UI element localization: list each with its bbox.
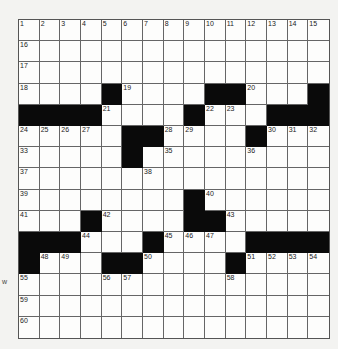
grid-cell[interactable]: 23	[226, 105, 247, 126]
grid-cell[interactable]: 47	[205, 232, 226, 253]
grid-cell[interactable]: 49	[60, 253, 81, 274]
grid-cell[interactable]	[81, 274, 102, 295]
grid-cell[interactable]	[226, 41, 247, 62]
grid-cell[interactable]	[164, 296, 185, 317]
grid-cell[interactable]: 30	[267, 126, 288, 147]
grid-cell[interactable]	[267, 274, 288, 295]
grid-cell[interactable]	[81, 317, 102, 338]
grid-cell[interactable]: 13	[267, 20, 288, 41]
grid-cell[interactable]	[226, 62, 247, 83]
grid-cell[interactable]	[102, 232, 123, 253]
grid-cell[interactable]	[267, 41, 288, 62]
grid-cell[interactable]: 33	[19, 147, 40, 168]
grid-cell[interactable]	[102, 62, 123, 83]
grid-cell[interactable]	[81, 190, 102, 211]
grid-cell[interactable]	[102, 190, 123, 211]
grid-cell[interactable]: 9	[184, 20, 205, 41]
grid-cell[interactable]	[81, 62, 102, 83]
grid-cell[interactable]	[205, 147, 226, 168]
grid-cell[interactable]	[60, 41, 81, 62]
grid-cell[interactable]	[308, 147, 329, 168]
grid-cell[interactable]	[143, 317, 164, 338]
grid-cell[interactable]	[143, 296, 164, 317]
grid-cell[interactable]	[205, 168, 226, 189]
grid-cell[interactable]	[102, 296, 123, 317]
grid-cell[interactable]	[226, 190, 247, 211]
grid-cell[interactable]: 21	[102, 105, 123, 126]
grid-cell[interactable]	[40, 296, 61, 317]
grid-cell[interactable]	[267, 211, 288, 232]
grid-cell[interactable]	[102, 147, 123, 168]
grid-cell[interactable]	[60, 84, 81, 105]
grid-cell[interactable]	[40, 211, 61, 232]
grid-cell[interactable]: 15	[308, 20, 329, 41]
grid-cell[interactable]	[81, 41, 102, 62]
grid-cell[interactable]	[267, 317, 288, 338]
grid-cell[interactable]	[246, 62, 267, 83]
grid-cell[interactable]	[164, 211, 185, 232]
grid-cell[interactable]	[246, 41, 267, 62]
grid-cell[interactable]	[81, 147, 102, 168]
grid-cell[interactable]	[122, 190, 143, 211]
grid-cell[interactable]: 60	[19, 317, 40, 338]
grid-cell[interactable]: 27	[81, 126, 102, 147]
grid-cell[interactable]	[226, 317, 247, 338]
grid-cell[interactable]: 42	[102, 211, 123, 232]
grid-cell[interactable]	[143, 62, 164, 83]
grid-cell[interactable]: 38	[143, 168, 164, 189]
grid-cell[interactable]	[267, 190, 288, 211]
grid-cell[interactable]	[205, 317, 226, 338]
grid-cell[interactable]	[102, 317, 123, 338]
grid-cell[interactable]	[60, 190, 81, 211]
grid-cell[interactable]	[288, 168, 309, 189]
grid-cell[interactable]: 48	[40, 253, 61, 274]
grid-cell[interactable]	[246, 317, 267, 338]
grid-cell[interactable]	[164, 253, 185, 274]
grid-cell[interactable]: 53	[288, 253, 309, 274]
grid-cell[interactable]	[246, 274, 267, 295]
grid-cell[interactable]	[164, 62, 185, 83]
grid-cell[interactable]: 22	[205, 105, 226, 126]
grid-cell[interactable]	[40, 190, 61, 211]
grid-cell[interactable]: 8	[164, 20, 185, 41]
grid-cell[interactable]	[246, 296, 267, 317]
grid-cell[interactable]: 20	[246, 84, 267, 105]
grid-cell[interactable]	[184, 84, 205, 105]
grid-cell[interactable]	[267, 84, 288, 105]
grid-cell[interactable]	[122, 41, 143, 62]
grid-cell[interactable]	[122, 62, 143, 83]
grid-cell[interactable]	[164, 317, 185, 338]
grid-cell[interactable]: 29	[184, 126, 205, 147]
grid-cell[interactable]: 26	[60, 126, 81, 147]
grid-cell[interactable]	[246, 168, 267, 189]
grid-cell[interactable]: 4	[81, 20, 102, 41]
grid-cell[interactable]	[164, 190, 185, 211]
grid-cell[interactable]: 43	[226, 211, 247, 232]
grid-cell[interactable]	[40, 274, 61, 295]
grid-cell[interactable]	[122, 105, 143, 126]
grid-cell[interactable]	[60, 317, 81, 338]
grid-cell[interactable]	[184, 253, 205, 274]
grid-cell[interactable]: 19	[122, 84, 143, 105]
grid-cell[interactable]	[184, 168, 205, 189]
grid-cell[interactable]	[288, 62, 309, 83]
grid-cell[interactable]: 11	[226, 20, 247, 41]
grid-cell[interactable]	[267, 147, 288, 168]
grid-cell[interactable]	[40, 62, 61, 83]
grid-cell[interactable]	[164, 41, 185, 62]
grid-cell[interactable]	[308, 62, 329, 83]
grid-cell[interactable]	[143, 147, 164, 168]
grid-cell[interactable]	[308, 168, 329, 189]
grid-cell[interactable]	[246, 211, 267, 232]
grid-cell[interactable]	[184, 41, 205, 62]
grid-cell[interactable]: 51	[246, 253, 267, 274]
grid-cell[interactable]	[60, 62, 81, 83]
grid-cell[interactable]: 59	[19, 296, 40, 317]
grid-cell[interactable]: 35	[164, 147, 185, 168]
grid-cell[interactable]	[143, 105, 164, 126]
grid-cell[interactable]	[308, 296, 329, 317]
grid-cell[interactable]	[288, 84, 309, 105]
grid-cell[interactable]	[226, 168, 247, 189]
grid-cell[interactable]	[143, 274, 164, 295]
grid-cell[interactable]	[308, 190, 329, 211]
